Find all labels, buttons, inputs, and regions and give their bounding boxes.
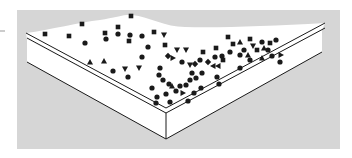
particle-circle — [259, 39, 264, 44]
particle-circle — [237, 52, 242, 57]
particle-circle — [115, 31, 120, 36]
particle-circle — [167, 99, 172, 104]
particle-square — [129, 14, 134, 19]
particle-square — [248, 37, 253, 42]
particle-circle — [199, 70, 204, 75]
particle-circle — [269, 53, 274, 58]
particle-circle — [139, 54, 144, 59]
particle-circle — [82, 40, 87, 45]
particle-circle — [237, 65, 242, 70]
particle-circle — [183, 82, 188, 87]
particle-circle — [265, 47, 270, 52]
particle-square — [163, 43, 168, 48]
particle-circle — [179, 59, 184, 64]
particle-square — [152, 30, 157, 35]
particle-circle — [227, 49, 232, 54]
particle-square — [255, 48, 260, 53]
particle-circle — [273, 37, 278, 42]
particle-circle — [127, 32, 132, 37]
particle-square — [116, 25, 121, 30]
particle-square — [43, 32, 48, 37]
particle-circle — [187, 77, 192, 82]
particle-circle — [216, 81, 221, 86]
particle-circle — [156, 72, 161, 77]
particle-circle — [277, 59, 282, 64]
particle-circle — [173, 88, 178, 93]
particle-circle — [163, 91, 168, 96]
particle-circle — [191, 90, 196, 95]
particle-circle — [193, 75, 198, 80]
particle-square — [80, 22, 85, 27]
particle-circle — [145, 44, 150, 49]
particle-circle — [160, 77, 165, 82]
particle-circle — [214, 74, 219, 79]
particle-circle — [185, 98, 190, 103]
particle-square — [221, 58, 226, 63]
particle-circle — [241, 47, 246, 52]
particle-square — [67, 34, 72, 39]
particle-circle — [139, 33, 144, 38]
particle-square — [268, 41, 273, 46]
particle-circle — [125, 74, 130, 79]
particle-circle — [154, 94, 159, 99]
particle-square — [214, 46, 219, 51]
particle-circle — [177, 83, 182, 88]
particle-circle — [198, 85, 203, 90]
particle-square — [231, 42, 236, 47]
particle-circle — [149, 85, 154, 90]
particle-circle — [166, 81, 171, 86]
particle-circle — [157, 65, 162, 70]
slab-illustration — [0, 0, 352, 158]
particle-circle — [103, 36, 108, 41]
particle-circle — [197, 57, 202, 62]
particle-circle — [247, 57, 252, 62]
particle-square — [226, 35, 231, 40]
particle-square — [201, 50, 206, 55]
particle-circle — [189, 70, 194, 75]
particle-square — [127, 39, 132, 44]
particle-circle — [110, 68, 115, 73]
particle-square — [103, 31, 108, 36]
particle-circle — [153, 100, 158, 105]
particle-circle — [212, 54, 217, 59]
